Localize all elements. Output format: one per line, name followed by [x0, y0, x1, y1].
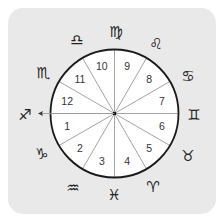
scorpio-icon: ♏︎	[36, 64, 50, 82]
capricorn-icon: ♑︎	[35, 145, 48, 163]
house-number-12: 12	[61, 95, 73, 107]
house-number-4: 4	[124, 155, 130, 167]
house-number-2: 2	[77, 142, 83, 154]
zodiac-wheel-diagram: 123456789101112 ♐︎♑︎♒︎♓︎♈︎♉︎♊︎♋︎♌︎♍︎♎︎♏︎	[0, 0, 223, 221]
cancer-icon: ♋︎	[181, 67, 194, 85]
pisces-icon: ♓︎	[107, 186, 120, 204]
gemini-icon: ♊︎	[187, 106, 200, 124]
house-number-1: 1	[64, 120, 70, 132]
house-number-5: 5	[146, 142, 152, 154]
house-number-6: 6	[159, 120, 165, 132]
virgo-icon: ♍︎	[109, 23, 122, 41]
house-number-7: 7	[159, 95, 165, 107]
leo-icon: ♌︎	[149, 35, 162, 53]
house-number-9: 9	[124, 60, 130, 72]
house-number-3: 3	[99, 155, 105, 167]
house-number-10: 10	[96, 60, 108, 72]
aries-icon: ♈︎	[146, 178, 159, 196]
house-number-8: 8	[146, 73, 152, 85]
aquarius-icon: ♒︎	[66, 179, 79, 197]
sagittarius-icon: ♐︎	[18, 106, 31, 124]
house-number-11: 11	[74, 73, 85, 85]
taurus-icon: ♉︎	[181, 147, 194, 165]
libra-icon: ♎︎	[70, 31, 83, 49]
